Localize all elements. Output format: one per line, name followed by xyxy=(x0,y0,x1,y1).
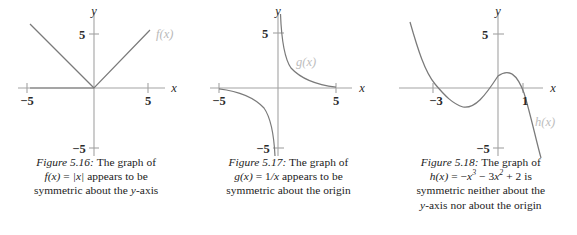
caption-5-16: Figure 5.16: The graph of f(x) = |x| app… xyxy=(12,155,180,198)
plot-svg-h: −3 1 5 −5 x y h(x) xyxy=(385,0,577,158)
x-tick-label-neg3: −3 xyxy=(429,94,442,108)
plot-svg-f: −5 5 5 −5 x y f(x) xyxy=(0,0,192,158)
caption-text-line3: symmetric neither about the xyxy=(416,184,545,196)
x-tick-label-pos1: 1 xyxy=(522,94,528,108)
caption-text-line3: symmetric about the xyxy=(34,184,128,196)
caption-text-line4: -axis xyxy=(136,184,158,196)
curve-g-branch-positive xyxy=(281,14,337,87)
caption-math-h: h(x) = −x3 − 3x2 + 2 xyxy=(430,170,522,182)
caption-text-line4: -axis nor about the origin xyxy=(425,199,541,211)
figure-panel-5-16: −5 5 5 −5 x y f(x) Figure 5.16: The grap… xyxy=(0,0,192,198)
caption-5-17: Figure 5.17: The graph of g(x) = 1/x app… xyxy=(204,155,372,198)
y-tick-label-pos5: 5 xyxy=(79,28,85,42)
x-axis-label: x xyxy=(359,81,366,95)
y-tick-label-pos5: 5 xyxy=(482,28,488,42)
x-tick-label-pos5: 5 xyxy=(333,94,339,108)
y-axis-label: y xyxy=(89,4,97,18)
caption-text-line2: appears to be xyxy=(87,170,148,182)
curve-label-h: h(x) xyxy=(535,115,555,129)
caption-math-f: f(x) = |x| xyxy=(44,170,84,182)
plot-area-h: −3 1 5 −5 x y h(x) xyxy=(385,0,577,158)
caption-text-line3: symmetric about the origin xyxy=(226,184,350,196)
x-tick-label-neg5: −5 xyxy=(20,94,33,108)
y-tick-label-neg5: −5 xyxy=(72,142,85,156)
x-tick-label-neg5: −5 xyxy=(213,94,226,108)
plot-area-f: −5 5 5 −5 x y f(x) xyxy=(0,0,192,158)
curve-label-g: g(x) xyxy=(296,55,316,69)
y-tick-label-pos5: 5 xyxy=(262,27,268,41)
x-axis-label: x xyxy=(170,81,177,95)
plot-area-g: −5 5 5 −5 x y g(x) xyxy=(192,0,384,158)
y-axis-label: y xyxy=(274,4,282,18)
y-tick-label-neg5: −5 xyxy=(257,142,270,156)
caption-text-line2: appears to be xyxy=(282,170,343,182)
x-axis-label: x xyxy=(549,81,556,95)
y-axis-label: y xyxy=(493,4,501,18)
plot-svg-g: −5 5 5 −5 x y g(x) xyxy=(192,0,384,158)
caption-text-line2: is xyxy=(524,170,532,182)
figure-panel-5-18: −3 1 5 −5 x y h(x) Figure 5.18: The grap… xyxy=(385,0,577,212)
figure-row: −5 5 5 −5 x y f(x) Figure 5.16: The grap… xyxy=(0,0,577,235)
curve-f xyxy=(30,30,150,88)
curve-label-f: f(x) xyxy=(156,27,173,41)
figure-panel-5-17: −5 5 5 −5 x y g(x) Figure 5.17: The grap… xyxy=(192,0,384,198)
y-tick-label-neg5: −5 xyxy=(476,142,489,156)
caption-5-18: Figure 5.18: The graph of h(x) = −x3 − 3… xyxy=(397,155,565,212)
curve-h xyxy=(410,22,541,158)
caption-math-g: g(x) = 1/x xyxy=(234,170,279,182)
x-tick-label-pos5: 5 xyxy=(145,94,151,108)
